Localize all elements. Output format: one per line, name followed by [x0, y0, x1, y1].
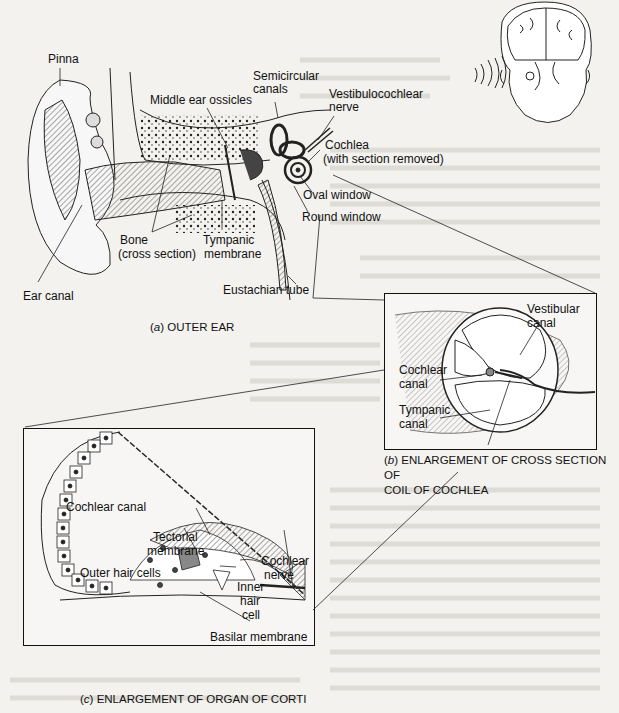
caption-panel-b: (b) ENLARGEMENT OF CROSS SECTION OFCOIL …	[384, 453, 619, 498]
label-cochlear-nerve-line2: nerve	[264, 568, 294, 582]
label-inner-hair-cell-line1: Inner	[237, 580, 264, 594]
ear-anatomy-illustration	[0, 0, 619, 713]
label-tympanic-canal-line2: canal	[399, 417, 428, 431]
label-ear-canal: Ear canal	[23, 289, 74, 303]
label-vestibular-canal-line2: canal	[527, 316, 556, 330]
label-pinna: Pinna	[48, 52, 79, 66]
label-basilar-membrane: Basilar membrane	[210, 630, 307, 644]
label-cochlea-line2: (with section removed)	[323, 152, 444, 166]
label-vestibulocochlear-nerve-line2: nerve	[329, 100, 359, 114]
label-cochlea-line1: Cochlea	[325, 138, 369, 152]
label-tectorial-membrane-line1: Tectorial	[153, 530, 198, 544]
label-vestibulocochlear-nerve-line1: Vestibulocochlear	[329, 87, 423, 101]
caption-panel-c: (c) ENLARGEMENT OF ORGAN OF CORTI	[80, 692, 306, 707]
label-bone-line1: Bone	[120, 233, 148, 247]
label-cochlear-canal-line2: canal	[399, 377, 428, 391]
label-semicircular-canals-line1: Semicircular	[253, 69, 319, 83]
label-middle-ear-ossicles: Middle ear ossicles	[150, 93, 252, 107]
label-semicircular-canals-line2: canals	[253, 82, 288, 96]
label-round-window: Round window	[302, 210, 381, 224]
caption-panel-a: (a) OUTER EAR	[150, 320, 234, 335]
label-cochlear-canal-line1: Cochlear	[399, 363, 447, 377]
label-inner-hair-cell-line2: hair	[240, 594, 260, 608]
label-bone-line2: (cross section)	[118, 247, 196, 261]
head-brain-icon	[475, 2, 591, 123]
label-cochlear-canal-c: Cochlear canal	[66, 500, 146, 514]
label-cochlear-nerve-line1: Cochlear	[261, 554, 309, 568]
label-vestibular-canal-line1: Vestibular	[527, 302, 580, 316]
label-tectorial-membrane-line2: membrane	[147, 544, 204, 558]
label-tympanic-membrane-line1: Tympanic	[203, 233, 254, 247]
label-inner-hair-cell-line3: cell	[242, 608, 260, 622]
label-outer-hair-cells: Outer hair cells	[80, 566, 161, 580]
label-tympanic-membrane-line2: membrane	[204, 247, 261, 261]
label-tympanic-canal-line1: Tympanic	[399, 403, 450, 417]
label-eustachian-tube: Eustachian tube	[223, 283, 309, 297]
label-oval-window: Oval window	[303, 188, 371, 202]
